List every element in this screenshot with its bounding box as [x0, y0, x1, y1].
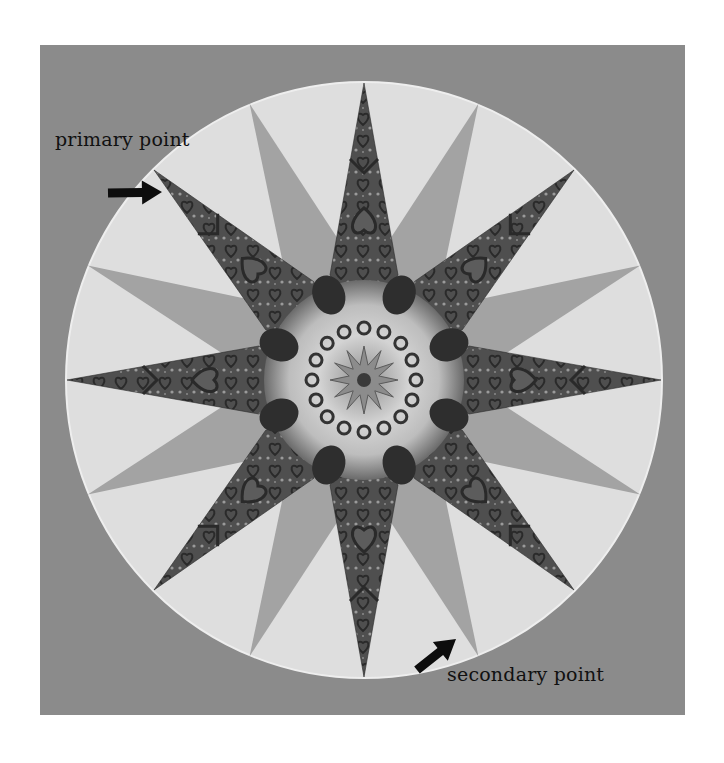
mariners-compass-diagram: [0, 0, 724, 763]
medallion-core: [357, 373, 371, 387]
primary-point-label: primary point: [55, 128, 190, 150]
secondary-point-label: secondary point: [447, 663, 604, 685]
